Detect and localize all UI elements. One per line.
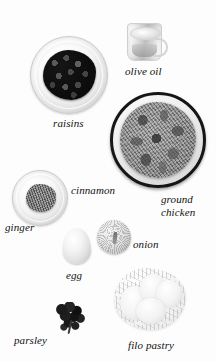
raisins-heap-icon [43,50,96,100]
ingredient-ginger [12,170,68,226]
raisins-bowl-icon [30,36,108,114]
label-filo-pastry: filo pastry [128,340,174,352]
filo-fold-d [136,298,166,324]
ingredient-olive-oil [125,20,169,62]
label-egg: egg [66,270,82,282]
ginger-pile-icon [26,184,56,212]
ingredient-ground-chicken [110,92,206,188]
ginger-bowl-icon [12,170,68,226]
onion-neck [112,232,118,244]
ingredient-parsley [53,302,89,336]
onion-icon [97,220,131,254]
ingredient-egg [63,228,91,264]
jug-handle [153,38,168,57]
ingredient-raisins [30,36,108,114]
label-raisins: raisins [53,118,84,130]
parsley-stem [67,320,72,334]
ingredient-onion [97,220,131,254]
ingredient-filo-pastry [114,268,186,330]
ingredients-photo-page: raisins olive oil ground chicken ginger … [0,0,216,362]
label-cinnamon: cinnamon [71,185,115,197]
olive-oil-jug-icon [125,20,169,62]
ground-chicken-mince-icon [120,102,196,178]
label-ginger: ginger [5,222,34,234]
label-ground-chicken-line2: chicken [161,207,195,219]
parsley-sprig-icon [53,302,89,336]
label-parsley: parsley [14,335,47,347]
label-onion: onion [133,239,159,251]
label-ground-chicken-line1: ground [161,194,193,206]
ground-chicken-bowl-icon [110,92,206,188]
egg-icon [63,228,91,264]
label-olive-oil: olive oil [125,66,162,78]
